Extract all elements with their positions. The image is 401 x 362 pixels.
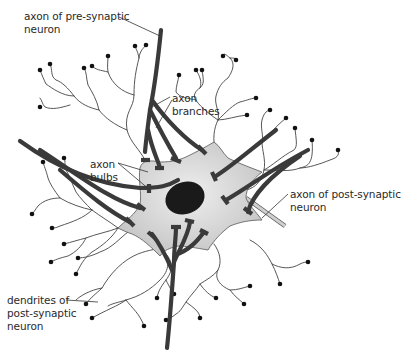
label-post-synaptic-axon: axon of post-synaptic neuron: [290, 188, 401, 214]
label-pre-synaptic-axon: axon of pre-synaptic neuron: [24, 10, 129, 36]
label-axon-branches: axon branches: [172, 92, 220, 118]
label-axon-bulbs: axon bulbs: [90, 158, 118, 184]
label-dendrites: dendrites of post-synaptic neuron: [7, 294, 76, 333]
